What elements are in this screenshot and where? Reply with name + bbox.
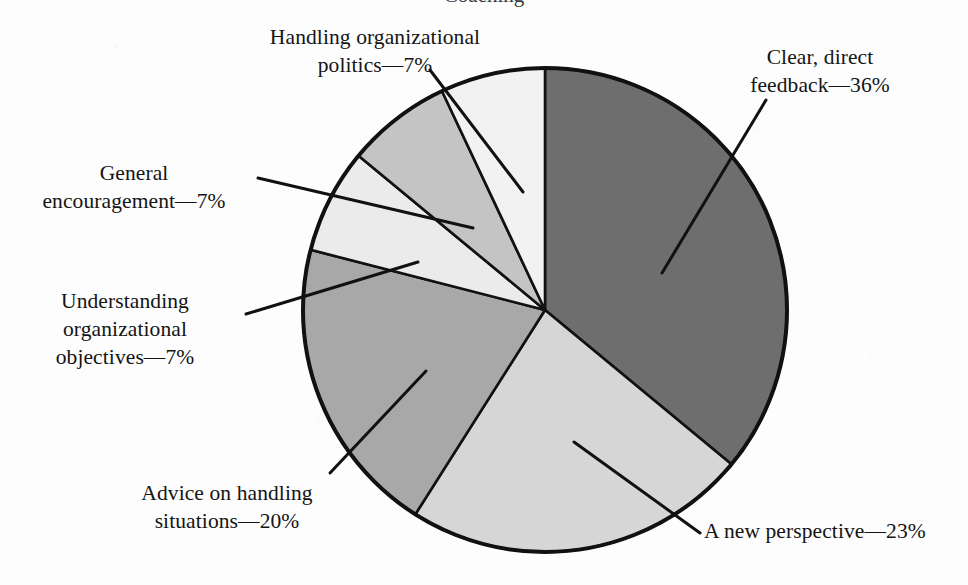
pie-slices-group (303, 68, 787, 552)
slice-label-advice-on-handling-situations: Advice on handling situations—20% (96, 480, 358, 536)
cropped-title-fragment: Coaching (0, 0, 968, 14)
pie-chart-figure: Coaching Handling organizational politic… (0, 0, 968, 585)
slice-label-understanding-organizational-objectives: Understanding organizational objectives—… (10, 288, 240, 372)
slice-label-general-encouragement: General encouragement—7% (8, 160, 260, 216)
slice-label-handling-organizational-politics: Handling organizational politics—7% (232, 24, 518, 80)
slice-label-a-new-perspective: A new perspective—23% (704, 518, 964, 546)
slice-label-clear-direct-feedback: Clear, direct feedback—36% (714, 44, 926, 100)
cropped-title-text: Coaching (444, 0, 524, 7)
